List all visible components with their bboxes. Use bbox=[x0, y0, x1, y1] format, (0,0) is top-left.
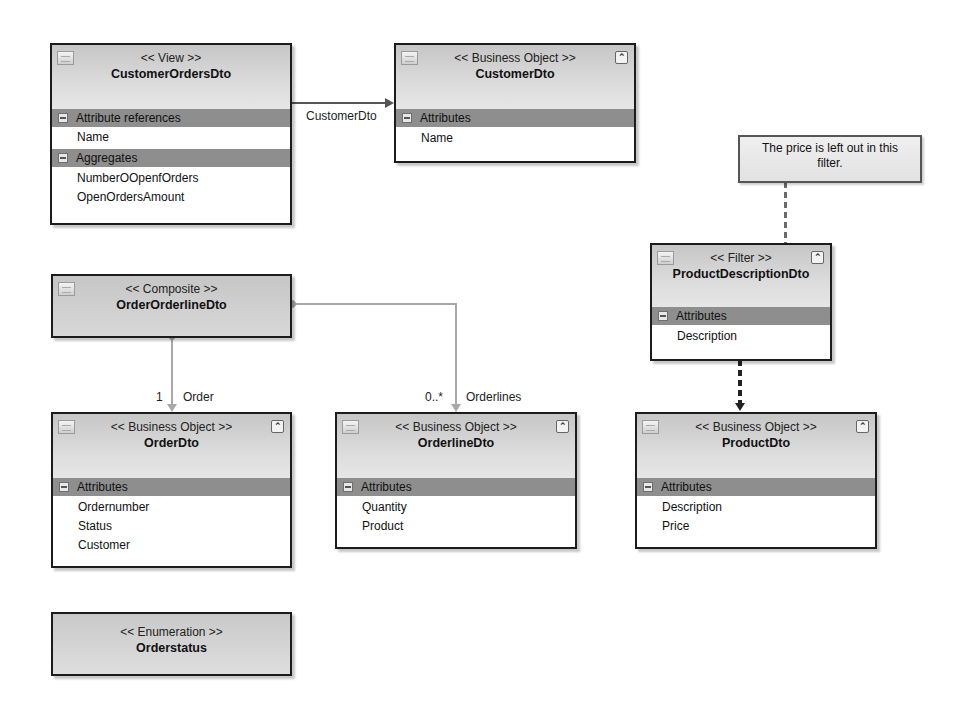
connector-customer-ref[interactable] bbox=[291, 102, 387, 104]
node-stereotype: << Business Object >> bbox=[53, 420, 290, 435]
node-name: OrderlineDto bbox=[337, 435, 575, 451]
note-text: The price is left out in this filter. bbox=[762, 141, 898, 170]
attribute-item[interactable]: Customer bbox=[53, 536, 290, 555]
comment-note[interactable]: The price is left out in this filter. bbox=[738, 135, 922, 183]
node-stereotype: << Business Object >> bbox=[396, 51, 634, 66]
section-title: Attributes bbox=[77, 478, 128, 496]
node-orderstatus[interactable]: << Enumeration >> Orderstatus bbox=[51, 612, 292, 676]
collapse-section-icon[interactable] bbox=[59, 482, 69, 492]
attribute-item[interactable]: Quantity bbox=[337, 498, 575, 517]
node-name: ProductDescriptionDto bbox=[652, 266, 830, 282]
connector-orderlines-assoc-v[interactable] bbox=[455, 303, 457, 404]
connector-label-customerdto: CustomerDto bbox=[306, 109, 377, 123]
collapse-node-icon[interactable]: ⌃ bbox=[556, 420, 569, 433]
connector-order-assoc[interactable] bbox=[171, 340, 173, 404]
attribute-item[interactable]: Product bbox=[337, 517, 575, 536]
arrowhead-icon bbox=[735, 403, 745, 411]
section-header-attributes[interactable]: Attributes bbox=[652, 307, 830, 325]
attribute-item[interactable]: Name bbox=[396, 129, 634, 148]
collapse-section-icon[interactable] bbox=[343, 482, 353, 492]
node-stereotype: << Business Object >> bbox=[637, 420, 875, 435]
node-header: << View >> CustomerOrdersDto bbox=[52, 45, 290, 109]
collapse-node-icon[interactable]: ⌃ bbox=[271, 420, 284, 433]
node-stereotype: << Composite >> bbox=[53, 282, 290, 297]
arrowhead-icon bbox=[451, 404, 461, 412]
attribute-item[interactable]: Status bbox=[53, 517, 290, 536]
node-customer-dto[interactable]: << Business Object >> CustomerDto ⌃ Attr… bbox=[394, 43, 636, 163]
node-header: << Composite >> OrderOrderlineDto bbox=[53, 276, 290, 336]
connector-filter-dependency[interactable] bbox=[738, 360, 742, 404]
section-title: Aggregates bbox=[76, 149, 137, 167]
note-link[interactable] bbox=[784, 182, 787, 243]
node-header: << Business Object >> OrderDto ⌃ bbox=[53, 414, 290, 478]
collapse-node-icon[interactable]: ⌃ bbox=[856, 420, 869, 433]
composite-icon bbox=[58, 282, 75, 296]
business-object-icon bbox=[401, 51, 418, 65]
node-header: << Business Object >> CustomerDto ⌃ bbox=[396, 45, 634, 109]
node-header: << Enumeration >> Orderstatus bbox=[53, 614, 290, 674]
section-header-attributes[interactable]: Attributes bbox=[637, 478, 875, 496]
attribute-item[interactable]: Description bbox=[652, 327, 830, 346]
node-name: OrderDto bbox=[53, 435, 290, 451]
section-header-aggregates[interactable]: Aggregates bbox=[52, 149, 290, 167]
node-product-description-dto[interactable]: << Filter >> ProductDescriptionDto ⌃ Att… bbox=[650, 243, 832, 361]
business-object-icon bbox=[58, 420, 75, 434]
section-title: Attributes bbox=[676, 307, 727, 325]
filter-icon bbox=[657, 251, 674, 265]
node-name: Orderstatus bbox=[53, 640, 290, 656]
section-title: Attribute references bbox=[76, 109, 181, 127]
node-stereotype: << View >> bbox=[52, 51, 290, 66]
attribute-item[interactable]: Name bbox=[52, 128, 290, 147]
attribute-item[interactable]: Ordernumber bbox=[53, 498, 290, 517]
node-header: << Filter >> ProductDescriptionDto ⌃ bbox=[652, 245, 830, 307]
arrowhead-icon bbox=[167, 404, 177, 412]
view-icon bbox=[57, 51, 74, 65]
collapse-section-icon[interactable] bbox=[58, 153, 68, 163]
section-header-attribute-references[interactable]: Attribute references bbox=[52, 109, 290, 127]
section-title: Attributes bbox=[361, 478, 412, 496]
node-name: CustomerDto bbox=[396, 66, 634, 82]
role-orderlines: Orderlines bbox=[466, 390, 521, 404]
attribute-item[interactable]: Description bbox=[637, 498, 875, 517]
node-name: ProductDto bbox=[637, 435, 875, 451]
node-orderline-dto[interactable]: << Business Object >> OrderlineDto ⌃ Att… bbox=[335, 412, 577, 549]
collapse-node-icon[interactable]: ⌃ bbox=[811, 251, 824, 264]
multiplicity-orderlines: 0..* bbox=[425, 390, 443, 404]
node-header: << Business Object >> OrderlineDto ⌃ bbox=[337, 414, 575, 478]
node-stereotype: << Enumeration >> bbox=[53, 625, 290, 640]
attribute-item[interactable]: NumberOOpenfOrders bbox=[52, 169, 290, 188]
node-name: OrderOrderlineDto bbox=[53, 297, 290, 313]
node-customer-orders-dto[interactable]: << View >> CustomerOrdersDto Attribute r… bbox=[50, 43, 292, 225]
node-order-orderline-dto[interactable]: << Composite >> OrderOrderlineDto bbox=[51, 274, 292, 338]
node-order-dto[interactable]: << Business Object >> OrderDto ⌃ Attribu… bbox=[51, 412, 292, 568]
arrowhead-icon bbox=[385, 98, 394, 108]
collapse-section-icon[interactable] bbox=[402, 113, 412, 123]
node-stereotype: << Filter >> bbox=[652, 251, 830, 266]
connector-orderlines-assoc-h[interactable] bbox=[296, 303, 456, 305]
collapse-node-icon[interactable]: ⌃ bbox=[615, 51, 628, 64]
node-name: CustomerOrdersDto bbox=[52, 66, 290, 82]
node-stereotype: << Business Object >> bbox=[337, 420, 575, 435]
multiplicity-order: 1 bbox=[156, 390, 163, 404]
role-order: Order bbox=[183, 390, 214, 404]
business-object-icon bbox=[342, 420, 359, 434]
collapse-section-icon[interactable] bbox=[58, 113, 68, 123]
section-header-attributes[interactable]: Attributes bbox=[337, 478, 575, 496]
section-header-attributes[interactable]: Attributes bbox=[396, 109, 634, 127]
node-product-dto[interactable]: << Business Object >> ProductDto ⌃ Attri… bbox=[635, 412, 877, 549]
attribute-item[interactable]: OpenOrdersAmount bbox=[52, 188, 290, 207]
collapse-section-icon[interactable] bbox=[658, 311, 668, 321]
attribute-item[interactable]: Price bbox=[637, 517, 875, 536]
section-title: Attributes bbox=[420, 109, 471, 127]
collapse-section-icon[interactable] bbox=[643, 482, 653, 492]
business-object-icon bbox=[642, 420, 659, 434]
node-header: << Business Object >> ProductDto ⌃ bbox=[637, 414, 875, 478]
section-header-attributes[interactable]: Attributes bbox=[53, 478, 290, 496]
section-title: Attributes bbox=[661, 478, 712, 496]
